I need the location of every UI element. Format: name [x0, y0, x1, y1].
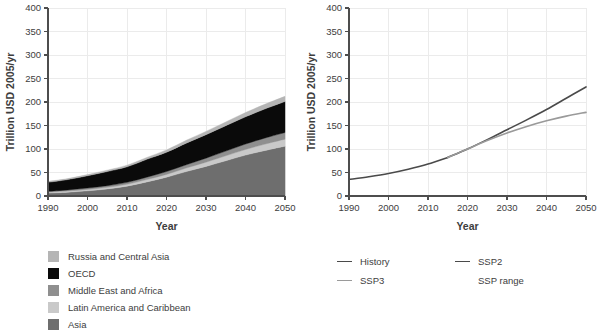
svg-text:0: 0: [337, 190, 342, 201]
legend-item-latin-america-and-caribbean: Latin America and Caribbean: [0, 299, 301, 316]
svg-text:300: 300: [326, 49, 342, 60]
svg-text:350: 350: [25, 26, 41, 37]
legend-item-history: History: [337, 252, 455, 271]
legend-label-history: History: [360, 256, 390, 267]
svg-text:2040: 2040: [536, 202, 557, 213]
svg-text:50: 50: [30, 167, 41, 178]
svg-text:100: 100: [25, 143, 41, 154]
svg-text:2010: 2010: [116, 202, 137, 213]
legend-label-asia: Asia: [68, 319, 86, 330]
svg-text:0: 0: [36, 190, 41, 201]
svg-text:150: 150: [25, 120, 41, 131]
legend-label-oecd: OECD: [68, 268, 95, 279]
legend-line-history: [337, 261, 352, 262]
svg-text:200: 200: [326, 96, 342, 107]
svg-text:2020: 2020: [156, 202, 177, 213]
svg-text:150: 150: [326, 120, 342, 131]
legend-label-latin-america-and-caribbean: Latin America and Caribbean: [68, 302, 191, 313]
svg-text:2000: 2000: [77, 202, 98, 213]
svg-text:250: 250: [25, 73, 41, 84]
legend-swatch-middle-east-and-africa: [48, 285, 59, 296]
svg-text:2000: 2000: [378, 202, 399, 213]
svg-text:1990: 1990: [37, 202, 58, 213]
left-chart-legend: Russia and Central Asia OECD Middle East…: [0, 248, 301, 333]
legend-item-ssp2: SSP2: [455, 252, 602, 271]
line-chart: 0501001502002503003504001990200020102020…: [301, 0, 602, 248]
svg-text:400: 400: [326, 2, 342, 13]
legend-item-ssp-range: SSP range: [455, 271, 602, 290]
svg-text:2010: 2010: [417, 202, 438, 213]
svg-text:2050: 2050: [274, 202, 295, 213]
svg-text:2030: 2030: [195, 202, 216, 213]
svg-text:1990: 1990: [338, 202, 359, 213]
legend-item-asia: Asia: [0, 316, 301, 333]
left-chart-panel: 0501001502002503003504001990200020102020…: [0, 0, 301, 336]
legend-label-ssp3: SSP3: [360, 275, 384, 286]
legend-label-middle-east-and-africa: Middle East and Africa: [68, 285, 163, 296]
svg-text:Trillion USD 2005/yr: Trillion USD 2005/yr: [4, 53, 16, 152]
svg-text:Year: Year: [155, 220, 177, 232]
legend-swatch-asia: [48, 319, 59, 330]
right-chart-legend: History SSP2 SSP3 SSP range: [301, 252, 602, 290]
svg-text:400: 400: [25, 2, 41, 13]
svg-text:2030: 2030: [496, 202, 517, 213]
legend-label-ssp-range: SSP range: [478, 275, 524, 286]
legend-swatch-oecd: [48, 268, 59, 279]
svg-text:2040: 2040: [235, 202, 256, 213]
svg-text:200: 200: [25, 96, 41, 107]
legend-item-russia-and-central-asia: Russia and Central Asia: [0, 248, 301, 265]
svg-text:50: 50: [331, 167, 342, 178]
svg-text:2050: 2050: [575, 202, 596, 213]
stacked-area-chart: 0501001502002503003504001990200020102020…: [0, 0, 301, 248]
svg-text:250: 250: [326, 73, 342, 84]
svg-text:300: 300: [25, 49, 41, 60]
svg-text:100: 100: [326, 143, 342, 154]
legend-label-russia-and-central-asia: Russia and Central Asia: [68, 251, 169, 262]
legend-line-ssp3: [337, 280, 352, 281]
legend-item-middle-east-and-africa: Middle East and Africa: [0, 282, 301, 299]
svg-text:2020: 2020: [457, 202, 478, 213]
svg-text:Trillion USD 2005/yr: Trillion USD 2005/yr: [305, 53, 317, 152]
legend-line-ssp2: [455, 261, 470, 262]
legend-item-oecd: OECD: [0, 265, 301, 282]
legend-swatch-latin-america-and-caribbean: [48, 302, 59, 313]
legend-item-ssp3: SSP3: [337, 271, 455, 290]
svg-text:350: 350: [326, 26, 342, 37]
legend-label-ssp2: SSP2: [478, 256, 502, 267]
svg-text:Year: Year: [456, 220, 478, 232]
legend-swatch-russia-and-central-asia: [48, 251, 59, 262]
